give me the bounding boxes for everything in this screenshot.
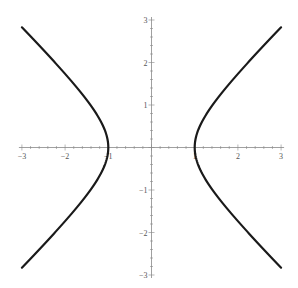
- y-tick-label: −3: [139, 271, 148, 280]
- hyperbola-plot: −3−2−1123−3−2−1123: [0, 0, 298, 288]
- y-tick-label: −1: [139, 186, 148, 195]
- x-tick-label: 2: [236, 152, 240, 161]
- y-tick-label: 3: [144, 16, 148, 25]
- y-tick-label: 2: [144, 59, 148, 68]
- y-tick-label: 1: [144, 101, 148, 110]
- x-tick-label: 3: [279, 152, 283, 161]
- x-tick-label: −2: [61, 152, 70, 161]
- x-tick-label: −3: [18, 152, 27, 161]
- y-tick-label: −2: [139, 229, 148, 238]
- tick-labels: −3−2−1123−3−2−1123: [18, 16, 283, 280]
